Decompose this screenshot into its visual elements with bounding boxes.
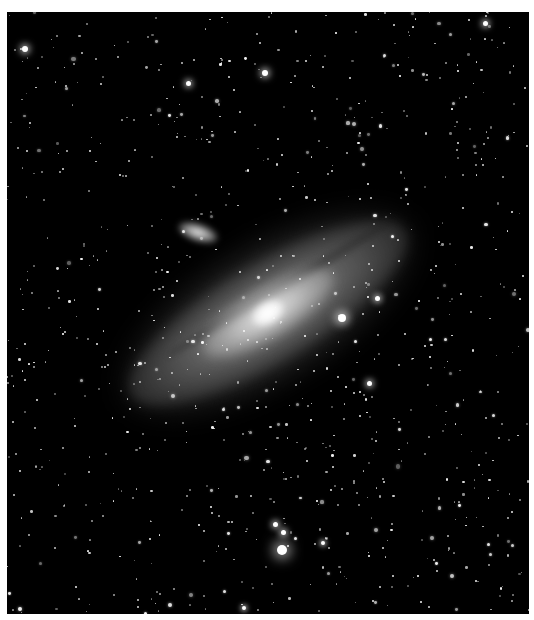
star [456,467,458,469]
star [168,114,171,117]
star [35,87,37,89]
star [424,345,426,347]
star [474,487,475,488]
star [256,539,257,540]
star [203,560,205,562]
star [165,422,167,424]
star [451,335,453,337]
star [136,488,137,489]
star [17,147,19,149]
star [107,229,109,231]
star [488,25,491,28]
star [105,354,107,356]
star [436,405,437,406]
star [352,378,355,381]
star [48,350,49,351]
star [397,239,399,241]
star [7,382,9,384]
star [427,558,428,559]
star [441,243,443,245]
star [182,177,184,179]
star [292,186,293,187]
star [332,466,334,468]
star [371,517,372,518]
star [156,591,158,593]
star [325,15,327,17]
star [521,572,523,574]
star [428,606,430,608]
star [240,343,241,344]
star [446,478,449,481]
star [386,128,387,129]
star [49,460,50,461]
star [225,204,227,206]
star [374,601,377,604]
star [133,383,135,385]
star [354,117,355,118]
star [426,74,429,77]
star [187,369,188,370]
star [226,322,228,324]
star [121,490,123,492]
star [424,186,426,188]
star [58,484,59,485]
star [335,32,336,33]
star [452,102,456,106]
star [449,243,451,245]
star [202,333,204,335]
star [182,422,184,424]
star [81,52,83,54]
star [245,531,247,533]
star [24,379,26,381]
star [463,399,465,401]
star [28,534,30,536]
star [374,358,376,360]
star [422,73,425,76]
star [260,77,261,78]
star [399,75,401,77]
star [113,473,114,474]
star [33,265,35,267]
star [336,583,337,584]
star [100,143,102,145]
star [139,407,140,408]
star [242,433,244,435]
star [279,198,281,200]
star [332,165,334,167]
star [304,185,306,187]
star [27,271,28,272]
star [353,454,355,456]
star [449,301,451,303]
star [428,436,430,438]
star [134,349,135,350]
star [62,447,64,449]
star [482,474,483,475]
star [304,335,305,336]
star [500,283,502,285]
star [322,443,324,445]
star [186,431,188,433]
star [195,194,196,195]
star [43,199,45,201]
star [375,440,377,442]
star [322,566,325,569]
star [296,60,298,62]
star [411,229,413,231]
star [316,354,318,356]
star [455,519,456,520]
star [409,35,410,36]
star [19,545,20,546]
star [458,501,460,503]
star [305,60,307,62]
star [326,202,328,204]
star [239,111,241,113]
star [147,252,149,254]
bright-star [273,522,278,527]
star [417,575,418,576]
star [483,143,485,145]
star [58,153,59,154]
star [490,609,491,610]
star [489,553,492,556]
star [65,85,67,87]
star [263,469,265,471]
